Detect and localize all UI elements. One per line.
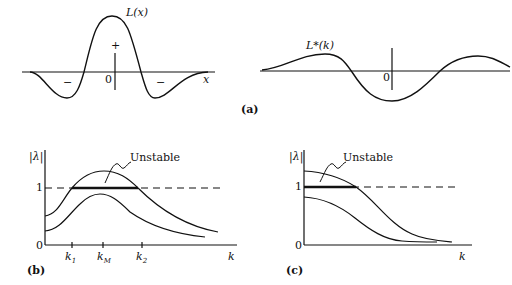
curve-upper-c	[304, 171, 452, 242]
origin-label-a-right: 0	[383, 72, 390, 83]
x-axis-label-b: k	[228, 251, 235, 262]
origin-label-a-left: 0	[105, 74, 112, 85]
unstable-pointer-b	[105, 162, 131, 183]
unstable-label-c: Unstable	[343, 152, 393, 163]
k2-label: k2	[136, 251, 147, 265]
curve-lower-b	[45, 194, 205, 237]
k1-label: k1	[65, 251, 76, 265]
y-tick-0-c: 0	[295, 240, 302, 251]
x-axis-label-c: k	[459, 251, 466, 262]
panel-label-c: (c)	[286, 265, 303, 276]
y-tick-0-b: 0	[36, 240, 43, 251]
minus-sign-left: −	[63, 77, 72, 88]
unstable-label-b: Unstable	[130, 152, 180, 163]
kM-label: kM	[97, 251, 111, 265]
minus-sign-right: −	[156, 77, 165, 88]
curve-label-L-x: L(x)	[126, 7, 148, 18]
plus-sign: +	[111, 40, 120, 51]
curve-L-x	[30, 16, 208, 98]
curve-label-L-star-k: L*(k)	[306, 40, 334, 51]
y-axis-label-c: |λ|	[289, 151, 303, 162]
curve-upper-b	[45, 171, 218, 232]
y-tick-1-b: 1	[36, 182, 43, 193]
x-axis-label-a: x	[203, 74, 209, 85]
panel-label-b: (b)	[27, 265, 45, 276]
curve-lower-c	[304, 197, 437, 242]
panel-label-a: (a)	[241, 104, 259, 115]
diagram-canvas	[0, 0, 512, 285]
y-axis-label-b: |λ|	[29, 151, 43, 162]
y-tick-1-c: 1	[295, 181, 302, 192]
